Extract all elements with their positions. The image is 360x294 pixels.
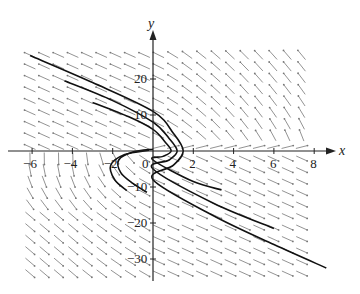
- arrow-head-icon: [124, 144, 126, 146]
- field-arrow: [25, 212, 34, 220]
- field-arrow: [40, 247, 49, 255]
- arrow-head-icon: [220, 275, 222, 277]
- field-arrow: [284, 73, 292, 82]
- arrow-head-icon: [249, 252, 251, 254]
- arrow-head-icon: [81, 98, 83, 100]
- field-arrow: [153, 191, 164, 196]
- arrow-head-icon: [24, 63, 26, 65]
- arrow-head-icon: [95, 121, 97, 123]
- field-arrow: [153, 237, 164, 242]
- field-arrow: [83, 224, 92, 231]
- field-arrow: [212, 131, 220, 140]
- arrow-head-icon: [206, 195, 208, 197]
- field-arrow: [284, 62, 292, 71]
- arrow-head-icon: [62, 230, 64, 232]
- field-arrow: [196, 225, 207, 230]
- x-tick-label: −2: [104, 156, 118, 171]
- arrow-head-icon: [134, 241, 136, 243]
- field-arrow: [67, 122, 78, 127]
- arrow-head-icon: [138, 63, 140, 65]
- arrow-head-icon: [263, 183, 265, 185]
- field-arrow: [25, 235, 34, 243]
- arrow-head-icon: [283, 107, 285, 109]
- arrow-head-icon: [103, 174, 105, 176]
- arrow-head-icon: [67, 52, 69, 54]
- arrow-head-icon: [239, 73, 241, 75]
- arrow-head-icon: [163, 218, 165, 220]
- arrow-head-icon: [163, 183, 165, 185]
- field-arrow: [183, 120, 193, 127]
- arrow-head-icon: [299, 129, 301, 131]
- field-arrow: [255, 51, 263, 60]
- arrow-head-icon: [163, 229, 165, 231]
- field-arrow: [96, 64, 107, 69]
- field-arrow: [139, 236, 149, 242]
- arrow-head-icon: [254, 61, 256, 63]
- arrow-head-icon: [220, 252, 222, 254]
- arrow-head-icon: [263, 252, 265, 254]
- field-arrow: [211, 63, 220, 71]
- arrow-head-icon: [206, 264, 208, 266]
- field-arrow: [153, 98, 164, 103]
- field-arrow: [25, 224, 34, 232]
- field-arrow: [255, 62, 263, 71]
- arrow-head-icon: [67, 98, 69, 100]
- field-arrow: [282, 146, 294, 149]
- arrow-head-icon: [52, 98, 54, 100]
- arrow-head-icon: [48, 230, 50, 232]
- arrow-head-icon: [90, 208, 92, 210]
- field-arrow: [125, 133, 136, 138]
- field-arrow: [197, 132, 206, 140]
- arrow-head-icon: [38, 144, 40, 146]
- arrow-head-icon: [192, 195, 194, 197]
- field-arrow: [139, 133, 150, 138]
- field-arrow: [25, 64, 36, 69]
- field-arrow: [86, 153, 88, 165]
- field-arrow: [41, 200, 48, 210]
- field-arrow: [212, 108, 221, 116]
- arrow-head-icon: [109, 75, 111, 77]
- arrow-head-icon: [167, 120, 169, 122]
- arrow-head-icon: [235, 145, 237, 147]
- arrow-head-icon: [278, 160, 280, 162]
- arrow-head-icon: [254, 73, 256, 75]
- arrow-head-icon: [210, 50, 212, 52]
- arrow-head-icon: [249, 145, 251, 147]
- field-arrow: [67, 110, 78, 115]
- arrow-head-icon: [52, 75, 54, 77]
- arrow-head-icon: [47, 208, 49, 210]
- arrow-head-icon: [38, 98, 40, 100]
- arrow-head-icon: [235, 275, 237, 277]
- arrow-head-icon: [38, 63, 40, 65]
- field-arrow: [270, 130, 276, 141]
- arrow-head-icon: [306, 252, 308, 254]
- arrow-head-icon: [192, 172, 194, 174]
- field-arrow: [43, 164, 45, 176]
- arrow-head-icon: [211, 73, 213, 75]
- arrow-head-icon: [220, 160, 222, 162]
- field-arrow: [183, 132, 193, 139]
- field-arrow: [299, 130, 303, 141]
- arrow-head-icon: [67, 121, 69, 123]
- field-arrow: [239, 146, 251, 149]
- field-arrow: [68, 212, 77, 220]
- field-arrow: [210, 248, 221, 253]
- arrow-head-icon: [138, 52, 140, 54]
- arrow-head-icon: [77, 242, 79, 244]
- field-arrow: [296, 202, 307, 207]
- arrow-head-icon: [235, 241, 237, 243]
- field-arrow: [40, 224, 49, 232]
- arrow-head-icon: [283, 61, 285, 63]
- field-arrow: [197, 51, 206, 58]
- field-arrow: [210, 179, 221, 184]
- field-arrow: [28, 176, 32, 187]
- field-arrow: [196, 202, 207, 207]
- field-arrow: [25, 99, 36, 104]
- arrow-head-icon: [67, 132, 69, 134]
- arrow-head-icon: [254, 107, 256, 109]
- arrow-head-icon: [109, 86, 111, 88]
- arrow-head-icon: [24, 75, 26, 77]
- arrow-head-icon: [62, 265, 64, 267]
- field-arrow: [82, 110, 93, 115]
- field-arrow: [269, 96, 276, 106]
